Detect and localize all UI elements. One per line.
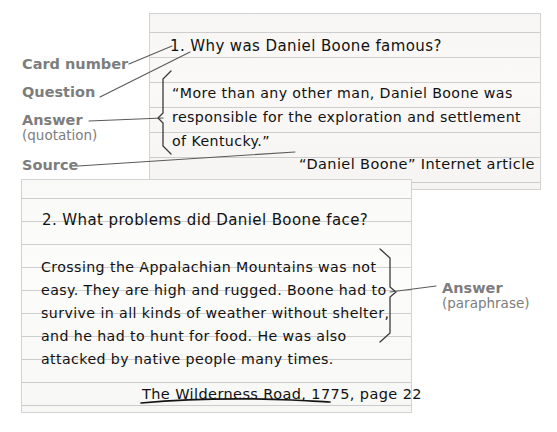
ruled-lines-card-2 [22,180,411,412]
ruled-lines-card-1 [150,14,540,189]
label-answer-paraphrase: Answer (paraphrase) [442,281,530,310]
label-answer-quotation-main: Answer [22,112,83,128]
label-question: Question [22,85,95,100]
label-source: Source [22,158,78,173]
paper-tint-card-1 [150,14,540,189]
note-card-diagram: 1. Why was Daniel Boone famous? “More th… [0,0,557,432]
label-question-text: Question [22,84,95,100]
label-answer-quotation: Answer (quotation) [22,113,97,142]
label-card-number: Card number [22,57,128,72]
paper-tint-card-2 [22,180,411,412]
note-card-1 [149,13,541,190]
label-source-text: Source [22,157,78,173]
label-card-number-text: Card number [22,56,128,72]
label-answer-paraphrase-sub: (paraphrase) [442,296,530,310]
note-card-2 [21,179,412,413]
label-answer-quotation-sub: (quotation) [22,128,97,142]
label-answer-paraphrase-main: Answer [442,280,503,296]
